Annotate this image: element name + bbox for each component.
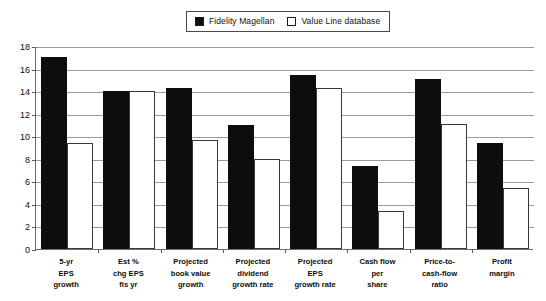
bar-group	[161, 47, 223, 249]
hollow-square-icon	[287, 17, 296, 26]
y-axis-tick-label: 16	[20, 65, 30, 74]
bar-series-a	[352, 166, 378, 249]
bar-series-b	[441, 124, 467, 249]
x-axis-category-label-line: ratio	[401, 279, 479, 291]
bar-group	[347, 47, 409, 249]
bar-series-a	[41, 57, 67, 249]
bar-group	[472, 47, 534, 249]
legend-entry-value-line-database: Value Line database	[287, 16, 380, 26]
y-axis-tick-label: 12	[20, 110, 30, 119]
bar-series-a	[290, 75, 316, 249]
bar-series-b	[378, 211, 404, 249]
bar-series-a	[166, 88, 192, 249]
legend-entry-fidelity-magellan: Fidelity Magellan	[195, 16, 274, 26]
legend-label-series-a: Fidelity Magellan	[209, 16, 274, 26]
y-axis-tick-mark	[32, 250, 36, 251]
bar-series-container	[36, 47, 533, 249]
y-axis-tick-label: 18	[20, 43, 30, 52]
y-axis-tick-label: 8	[25, 155, 30, 164]
x-axis-category-label: Profitmargin	[463, 256, 541, 279]
bar-series-b	[67, 143, 93, 249]
x-axis-tick-mark	[410, 249, 411, 253]
y-axis-tick-label: 2	[25, 223, 30, 232]
bar-series-b	[316, 88, 342, 249]
bar-series-a	[415, 79, 441, 249]
bar-group	[223, 47, 285, 249]
x-axis-tick-mark	[472, 249, 473, 253]
y-axis-tick-label: 10	[20, 133, 30, 142]
bar-series-b	[129, 91, 155, 249]
plot-area: 181614121086420	[35, 47, 533, 250]
x-axis-category-label-line: Profit	[463, 256, 541, 268]
bar-series-b	[254, 159, 280, 249]
y-axis-tick-label: 14	[20, 88, 30, 97]
bar-series-b	[503, 188, 529, 249]
y-axis-tick-label: 4	[25, 200, 30, 209]
x-axis-tick-mark	[347, 249, 348, 253]
bar-group	[98, 47, 160, 249]
y-axis-tick-label: 6	[25, 178, 30, 187]
bar-group	[285, 47, 347, 249]
bar-series-a	[228, 125, 254, 249]
bar-series-a	[477, 143, 503, 249]
legend-label-series-b: Value Line database	[301, 16, 380, 26]
y-axis-tick-label: 0	[25, 246, 30, 255]
x-axis-category-labels: 5-yrEPSgrowthEst %chg EPSfis yrProjected…	[35, 256, 533, 298]
bar-group	[410, 47, 472, 249]
x-axis-tick-mark	[98, 249, 99, 253]
chart-legend: Fidelity Magellan Value Line database	[186, 11, 390, 32]
x-axis-tick-mark	[223, 249, 224, 253]
bar-series-b	[192, 140, 218, 249]
bar-group	[36, 47, 98, 249]
x-axis-tick-mark	[161, 249, 162, 253]
filled-square-icon	[195, 17, 204, 26]
x-axis-tick-mark	[285, 249, 286, 253]
x-axis-category-label-line: margin	[463, 268, 541, 280]
bar-series-a	[103, 91, 129, 249]
